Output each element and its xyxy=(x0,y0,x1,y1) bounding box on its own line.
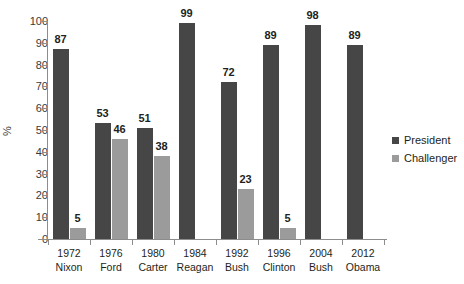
x-axis-label-name: Obama xyxy=(342,260,384,274)
legend-item-president[interactable]: President xyxy=(392,131,457,149)
x-axis-label-name: Reagan xyxy=(174,260,216,274)
x-axis-tick-mark xyxy=(174,240,175,245)
x-axis-ticks xyxy=(48,240,384,245)
bar-president: 99 xyxy=(179,23,195,239)
y-axis-tick: 50 xyxy=(0,130,48,131)
x-axis-labels: 1972Nixon1976Ford1980Carter1984Reagan199… xyxy=(48,246,384,274)
x-axis-label: 1996Clinton xyxy=(258,246,300,274)
bar-value-label: 38 xyxy=(155,141,167,152)
bar-value-label: 5 xyxy=(74,213,80,224)
bar-president: 51 xyxy=(137,128,153,239)
bar-president: 89 xyxy=(263,45,279,239)
bar-president: 87 xyxy=(53,49,69,239)
plot-area: 875534651389972238959889 xyxy=(48,21,384,239)
bar-group: 98 xyxy=(300,21,342,239)
bar-group: 875 xyxy=(48,21,90,239)
x-axis-label: 1976Ford xyxy=(90,246,132,274)
bar-value-label: 98 xyxy=(306,10,318,21)
x-axis-label: 1992Bush xyxy=(216,246,258,274)
x-axis-label-name: Carter xyxy=(132,260,174,274)
legend-label: President xyxy=(404,135,450,146)
y-axis-tick: 90 xyxy=(0,43,48,44)
bar-group: 5346 xyxy=(90,21,132,239)
x-axis-label-year: 1984 xyxy=(174,246,216,260)
bar-group: 5138 xyxy=(132,21,174,239)
bar-value-label: 87 xyxy=(54,34,66,45)
legend-item-challenger[interactable]: Challenger xyxy=(392,149,457,167)
bar-value-label: 53 xyxy=(96,108,108,119)
x-axis-label-name: Nixon xyxy=(48,260,90,274)
bar-group: 895 xyxy=(258,21,300,239)
bar-chart: % 1009080706050403020100 875534651389972… xyxy=(0,0,464,284)
x-axis-label-name: Clinton xyxy=(258,260,300,274)
bar-challenger: 46 xyxy=(112,139,128,239)
y-axis-tick: 40 xyxy=(0,152,48,153)
x-axis-label-year: 1996 xyxy=(258,246,300,260)
x-axis-tick-mark xyxy=(132,240,133,245)
bar-group: 89 xyxy=(342,21,384,239)
x-axis-label-year: 2004 xyxy=(300,246,342,260)
y-axis-tick: 70 xyxy=(0,86,48,87)
x-axis-tick-mark xyxy=(90,240,91,245)
x-axis-tick-mark xyxy=(48,240,49,245)
x-axis-label: 1984Reagan xyxy=(174,246,216,274)
bar-value-label: 89 xyxy=(348,30,360,41)
y-axis-tick: 100 xyxy=(0,21,48,22)
x-axis-tick-mark xyxy=(300,240,301,245)
x-axis-label-year: 1980 xyxy=(132,246,174,260)
x-axis-tick-mark xyxy=(216,240,217,245)
x-axis-tick-mark xyxy=(258,240,259,245)
bar-president: 53 xyxy=(95,123,111,239)
bar-challenger: 5 xyxy=(70,228,86,239)
y-axis-tick: 20 xyxy=(0,195,48,196)
bar-value-label: 46 xyxy=(113,124,125,135)
y-axis-tick: 80 xyxy=(0,65,48,66)
bar-challenger: 38 xyxy=(154,156,170,239)
x-axis-tick-mark xyxy=(384,240,385,245)
bar-value-label: 99 xyxy=(180,8,192,19)
bar-group: 7223 xyxy=(216,21,258,239)
chart-legend: PresidentChallenger xyxy=(392,131,457,167)
bar-challenger: 23 xyxy=(238,189,254,239)
bar-president: 98 xyxy=(305,25,321,239)
legend-label: Challenger xyxy=(404,153,457,164)
bar-president: 72 xyxy=(221,82,237,239)
legend-swatch-challenger-icon xyxy=(392,155,399,162)
x-axis-label: 1972Nixon xyxy=(48,246,90,274)
x-axis-label-name: Bush xyxy=(216,260,258,274)
x-axis-label: 1980Carter xyxy=(132,246,174,274)
x-axis-label: 2004Bush xyxy=(300,246,342,274)
bar-value-label: 89 xyxy=(264,30,276,41)
x-axis-label-year: 2012 xyxy=(342,246,384,260)
bar-value-label: 23 xyxy=(239,174,251,185)
x-axis-label-year: 1972 xyxy=(48,246,90,260)
x-axis-label: 2012Obama xyxy=(342,246,384,274)
x-axis-tick-mark xyxy=(342,240,343,245)
legend-swatch-president-icon xyxy=(392,137,399,144)
y-axis-tick: 30 xyxy=(0,174,48,175)
y-axis-title: % xyxy=(1,122,13,140)
bar-value-label: 72 xyxy=(222,67,234,78)
y-axis-tick: 10 xyxy=(0,217,48,218)
x-axis-label-year: 1992 xyxy=(216,246,258,260)
bar-group: 99 xyxy=(174,21,216,239)
y-axis-tick: 60 xyxy=(0,108,48,109)
bar-president: 89 xyxy=(347,45,363,239)
bar-challenger: 5 xyxy=(280,228,296,239)
x-axis-label-name: Ford xyxy=(90,260,132,274)
bar-value-label: 5 xyxy=(284,213,290,224)
x-axis-label-year: 1976 xyxy=(90,246,132,260)
bar-value-label: 51 xyxy=(138,113,150,124)
x-axis-label-name: Bush xyxy=(300,260,342,274)
